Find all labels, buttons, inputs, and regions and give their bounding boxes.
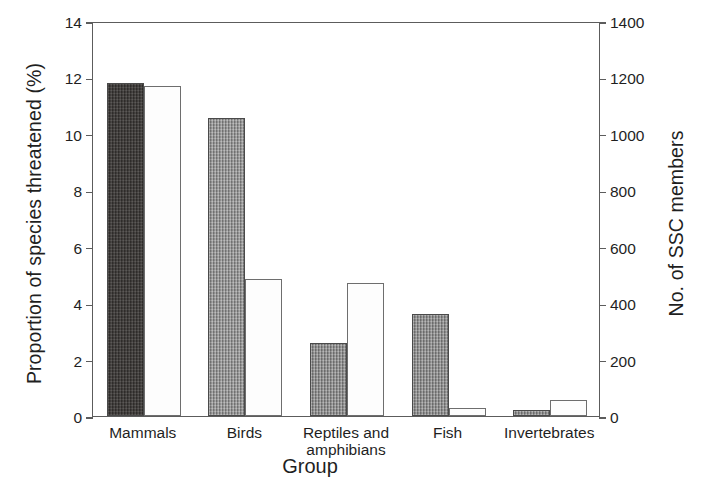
y-axis-left-tick-label: 6	[73, 241, 82, 257]
y-axis-right-tick-mark	[599, 135, 606, 136]
bar-ssc-members-mammals	[144, 86, 181, 416]
y-axis-right-tick-mark	[599, 361, 606, 362]
x-axis-title: Group	[0, 455, 620, 478]
bar-threatened-reptiles-and-amphibians	[310, 343, 347, 416]
bar-threatened-invertebrates	[513, 410, 550, 416]
x-axis-tick-label: Invertebrates	[479, 424, 619, 441]
y-axis-left-tick-label: 8	[73, 184, 82, 200]
y-axis-right-tick-mark	[599, 79, 606, 80]
y-axis-right-tick-label: 400	[610, 297, 636, 313]
x-axis-tick-label-line: amphibians	[276, 441, 416, 458]
y-axis-right-tick-mark	[599, 22, 606, 23]
plot-area: 02468101214 0200400600800100012001400	[92, 22, 600, 417]
y-axis-right-tick-mark	[599, 248, 606, 249]
bar-ssc-members-invertebrates	[550, 400, 587, 416]
y-axis-right-tick-label: 1000	[610, 128, 644, 144]
y-axis-left-tick-mark	[86, 361, 93, 362]
bar-ssc-members-fish	[449, 408, 486, 416]
y-axis-right-tick-mark	[599, 305, 606, 306]
y-axis-left-tick-mark	[86, 248, 93, 249]
y-axis-left-tick-label: 10	[65, 128, 82, 144]
chart-figure: Proportion of species threatened (%) No.…	[0, 0, 711, 488]
y-axis-left-tick-mark	[86, 305, 93, 306]
bar-threatened-birds	[208, 118, 245, 416]
y-axis-left-tick-label: 12	[65, 71, 82, 87]
y-axis-left-tick-label: 14	[65, 15, 82, 31]
y-axis-right-title: No. of SSC members	[665, 24, 688, 424]
bar-ssc-members-reptiles-and-amphibians	[347, 283, 384, 416]
y-axis-left-title: Proportion of species threatened (%)	[23, 24, 46, 424]
y-axis-left-tick-mark	[86, 79, 93, 80]
y-axis-right-tick-label: 800	[610, 184, 636, 200]
y-axis-left-tick-mark	[86, 192, 93, 193]
y-axis-left-tick-label: 4	[73, 297, 82, 313]
y-axis-left-tick-mark	[86, 135, 93, 136]
bar-ssc-members-birds	[245, 279, 282, 416]
y-axis-right-tick-label: 600	[610, 241, 636, 257]
x-axis-tick-label-line: Invertebrates	[479, 424, 619, 441]
y-axis-right-tick-label: 200	[610, 354, 636, 370]
y-axis-left-tick-mark	[86, 417, 93, 418]
y-axis-left-tick-mark	[86, 22, 93, 23]
bar-threatened-mammals	[107, 83, 144, 416]
y-axis-left-tick-label: 2	[73, 354, 82, 370]
y-axis-right-tick-mark	[599, 417, 606, 418]
y-axis-right-tick-label: 1400	[610, 15, 644, 31]
bar-threatened-fish	[412, 314, 449, 416]
y-axis-right-tick-mark	[599, 192, 606, 193]
y-axis-right-tick-label: 1200	[610, 71, 644, 87]
